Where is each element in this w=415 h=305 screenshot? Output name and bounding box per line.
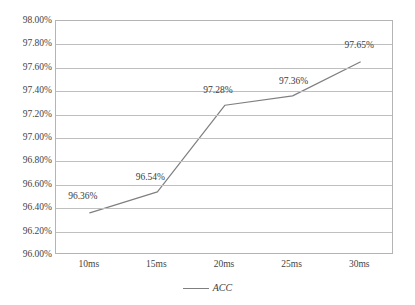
gridline — [56, 161, 392, 162]
data-point-label: 97.36% — [279, 75, 308, 86]
y-axis-tick-label: 96.00% — [0, 249, 52, 259]
gridline — [56, 208, 392, 209]
gridline — [56, 185, 392, 186]
line-chart: 98.00%97.80%97.60%97.40%97.20%97.00%96.8… — [0, 0, 415, 305]
gridline — [56, 138, 392, 139]
y-axis-tick-label: 96.60% — [0, 179, 52, 189]
gridline — [56, 232, 392, 233]
x-axis-tick-labels: 10ms15ms20ms25ms30ms — [55, 258, 393, 272]
legend-label-acc: ACC — [213, 282, 232, 294]
data-point-label: 97.28% — [203, 85, 232, 96]
y-axis-tick-label: 96.40% — [0, 202, 52, 212]
y-axis-tick-label: 97.60% — [0, 62, 52, 72]
x-axis-tick-label: 25ms — [262, 258, 322, 270]
gridline — [56, 44, 392, 45]
gridline — [56, 115, 392, 116]
y-axis-tick-labels: 98.00%97.80%97.60%97.40%97.20%97.00%96.8… — [0, 20, 52, 254]
data-point-label: 96.54% — [136, 171, 165, 182]
y-axis-tick-label: 97.20% — [0, 109, 52, 119]
x-axis-tick-label: 20ms — [194, 258, 254, 270]
plot-area — [55, 20, 393, 254]
y-axis-tick-label: 96.20% — [0, 226, 52, 236]
x-axis-tick-label: 30ms — [329, 258, 389, 270]
data-point-label: 97.65% — [345, 39, 374, 50]
legend-line-swatch — [183, 288, 209, 289]
data-point-label: 96.36% — [68, 190, 97, 201]
y-axis-tick-label: 97.40% — [0, 85, 52, 95]
y-axis-tick-label: 97.00% — [0, 132, 52, 142]
y-axis-tick-label: 96.80% — [0, 155, 52, 165]
x-axis-tick-label: 10ms — [59, 258, 119, 270]
gridline — [56, 68, 392, 69]
chart-legend: ACC — [0, 278, 415, 298]
y-axis-tick-label: 98.00% — [0, 15, 52, 25]
y-axis-tick-label: 97.80% — [0, 38, 52, 48]
x-axis-tick-label: 15ms — [126, 258, 186, 270]
